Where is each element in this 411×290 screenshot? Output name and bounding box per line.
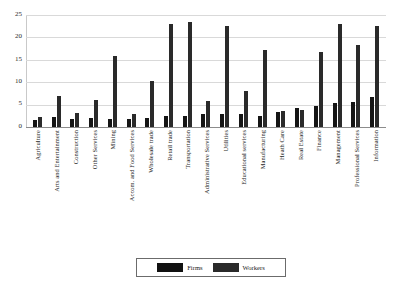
x-axis-label: Management	[334, 130, 341, 164]
bar-firms	[33, 120, 37, 127]
x-label-cell: Wholesale trade	[140, 130, 159, 242]
x-label-cell: Educational services	[234, 130, 253, 242]
x-axis-label: Accom. and Food Services	[128, 130, 135, 201]
bar-group	[272, 15, 291, 127]
bar-group	[253, 15, 272, 127]
bar-firms	[258, 116, 262, 127]
bar-firms	[164, 116, 168, 127]
bar-group	[140, 15, 159, 127]
firms-swatch-icon	[157, 263, 183, 272]
bar-workers	[356, 45, 360, 127]
bar-firms	[239, 114, 243, 127]
x-axis-label: Educational services	[240, 130, 247, 185]
x-axis-label: Administrative Services	[202, 130, 209, 194]
bar-group	[346, 15, 365, 127]
bar-firms	[370, 97, 374, 127]
bar-group	[103, 15, 122, 127]
bar-firms	[220, 114, 224, 127]
bar-workers	[281, 111, 285, 127]
x-axis-label: Finance	[315, 130, 322, 151]
bar-group	[122, 15, 141, 127]
x-label-cell: Management	[328, 130, 347, 242]
x-axis-label: Manufacturing	[259, 130, 266, 169]
x-axis-label: Agriculture	[34, 130, 41, 161]
x-axis-label: Mining	[109, 130, 116, 149]
y-tick-label: 5	[6, 100, 22, 107]
legend-entry-workers: Workers	[213, 263, 265, 272]
legend-label-firms: Firms	[187, 264, 202, 271]
x-label-cell: Other Services	[84, 130, 103, 242]
bar-workers	[94, 100, 98, 127]
bar-firms	[108, 119, 112, 127]
x-axis-label: Other Services	[90, 130, 97, 169]
bar-group	[234, 15, 253, 127]
bar-group	[309, 15, 328, 127]
y-tick-label: 10	[6, 78, 22, 85]
bar-workers	[319, 52, 323, 127]
bar-workers	[338, 24, 342, 127]
bar-workers	[75, 113, 79, 127]
bar-group	[84, 15, 103, 127]
bar-workers	[244, 91, 248, 127]
bar-firms	[52, 117, 56, 127]
bar-group	[65, 15, 84, 127]
bar-group	[159, 15, 178, 127]
x-axis-label: Construction	[71, 130, 78, 164]
y-tick-label: 15	[6, 56, 22, 63]
legend-entry-firms: Firms	[157, 263, 202, 272]
x-axis-label: Transportation	[184, 130, 191, 169]
x-label-cell: Construction	[65, 130, 84, 242]
bar-workers	[225, 26, 229, 127]
bar-firms	[70, 119, 74, 128]
bar-workers	[57, 96, 61, 127]
bar-workers	[375, 26, 379, 127]
bar-chart-figure: 25 20 15 10 5 0 AgricultureArts and Ente…	[0, 0, 411, 290]
bar-group	[47, 15, 66, 127]
bar-group	[178, 15, 197, 127]
plot-area	[26, 15, 386, 127]
bar-group	[215, 15, 234, 127]
bar-group	[328, 15, 347, 127]
bar-workers	[169, 24, 173, 127]
bar-workers	[38, 117, 42, 127]
x-axis-label: Heath Care	[277, 130, 284, 160]
bar-group	[28, 15, 47, 127]
bar-workers	[150, 81, 154, 127]
chart-legend: Firms Workers	[136, 258, 286, 277]
bar-workers	[263, 50, 267, 127]
x-axis-label: Wholesale trade	[146, 130, 153, 173]
bar-group	[197, 15, 216, 127]
x-axis-label: Arts and Entertainment	[53, 130, 60, 192]
x-label-cell: Transportation	[178, 130, 197, 242]
x-axis-label: Retail trade	[165, 130, 172, 161]
bar-groups	[26, 15, 386, 127]
x-label-cell: Utilities	[215, 130, 234, 242]
x-label-cell: Information	[365, 130, 384, 242]
bar-workers	[132, 114, 136, 127]
workers-swatch-icon	[213, 263, 239, 272]
x-label-cell: Arts and Entertainment	[47, 130, 66, 242]
x-label-cell: Administrative Services	[197, 130, 216, 242]
x-axis-label: Real Estate	[296, 130, 303, 160]
x-label-cell: Real Estate	[290, 130, 309, 242]
bar-firms	[127, 119, 131, 128]
x-label-cell: Mining	[103, 130, 122, 242]
x-axis-tick-labels: AgricultureArts and EntertainmentConstru…	[26, 130, 386, 242]
bar-firms	[295, 108, 299, 127]
bar-firms	[314, 106, 318, 127]
bar-workers	[113, 56, 117, 127]
x-label-cell: Professional Services	[346, 130, 365, 242]
bar-firms	[351, 102, 355, 127]
bar-firms	[333, 103, 337, 127]
bar-workers	[300, 110, 304, 127]
bar-firms	[89, 118, 93, 127]
x-axis-label: Utilities	[221, 130, 228, 152]
x-label-cell: Heath Care	[272, 130, 291, 242]
legend-label-workers: Workers	[243, 264, 265, 271]
bar-group	[290, 15, 309, 127]
x-label-cell: Retail trade	[159, 130, 178, 242]
bar-workers	[188, 22, 192, 127]
x-label-cell: Manufacturing	[253, 130, 272, 242]
bar-group	[365, 15, 384, 127]
y-tick-label: 0	[6, 123, 22, 130]
